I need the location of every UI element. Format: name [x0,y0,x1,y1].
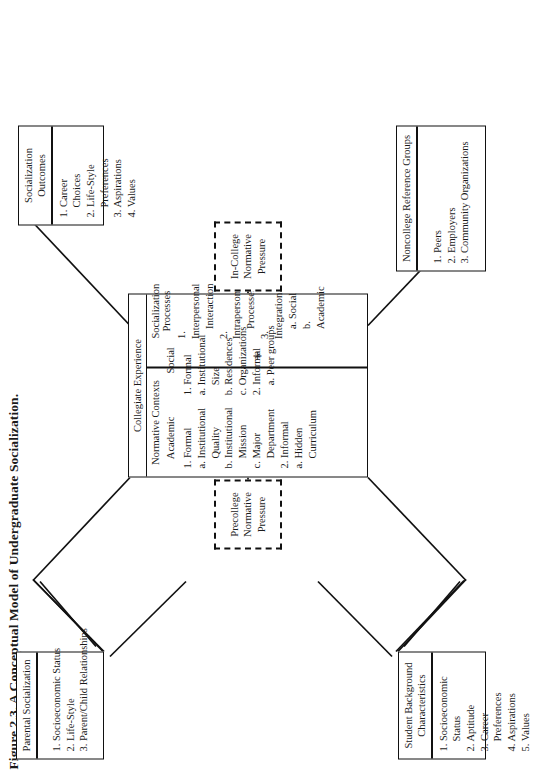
list-item: 1. Career [57,158,71,217]
box-collegiate-experience[interactable]: Collegiate Experience Normative Contexts… [128,293,368,477]
list-item: 1. Socioeconomic Status [50,628,64,751]
outcomes-list: 1. Career Choices 2. Life-Style Preferen… [57,158,139,217]
list-item: Quality [209,407,223,468]
list-item: 2. Life-Style [64,628,78,751]
box-noncollege-reference-groups[interactable]: Noncollege Reference Groups 1. Peers 2. … [396,125,486,271]
socialization-processes-title: Socialization Processes [147,277,173,344]
list-item: b. Academic [300,283,328,338]
box-incollege-normative-pressure[interactable]: In-College Normative Pressure [214,221,282,291]
link-student-to-center [318,581,392,656]
outcomes-header: Socialization Outcomes [19,126,51,224]
link-parental-to-center [110,581,186,656]
list-item: 3. Parent/Child Relationships [77,628,91,751]
box-precollege-normative-pressure[interactable]: Precollege Normative Pressure [214,479,282,549]
list-item: 2. Aptitude [464,676,478,751]
list-item: Curriculum [306,407,320,468]
list-item: 1. Peers [431,141,445,263]
diag-5 [33,222,130,325]
parental-list: 1. Socioeconomic Status 2. Life-Style 3.… [50,628,91,751]
student-body: 1. Socioeconomic Status 2. Aptitude 3. C… [433,652,534,758]
list-item: Department [264,407,278,468]
noncollege-body: 1. Peers 2. Employers 3. Community Organ… [418,126,485,270]
list-item: c. Major [250,407,264,468]
normative-contexts-content: Academic 1. Formal a. Institutional Qual… [162,368,367,476]
subcol-academic: Academic 1. Formal a. Institutional Qual… [164,402,319,470]
academic-subtitle: Academic [164,407,178,468]
box-student-background[interactable]: Student Background Characteristics 1. So… [398,651,486,759]
list-item: Mission [236,407,250,468]
parental-header: Parental Socialization [17,652,36,758]
outcomes-body: 1. Career Choices 2. Life-Style Preferen… [53,126,143,224]
student-header: Student Background Characteristics [399,652,431,758]
incollege-label: In-College Normative Pressure [228,223,267,289]
list-item: 3. Career [478,676,492,751]
parental-body: 1. Socioeconomic Status 2. Life-Style 3.… [38,652,103,758]
list-item: 2. Employers [445,141,459,263]
box-socialization-outcomes[interactable]: Socialization Outcomes 1. Career Choices… [18,125,104,225]
list-item: 1. Interpersonal [175,283,203,338]
list-item: 3. Aspirations [111,158,125,217]
list-item: a. Social [286,283,300,338]
list-item: 4. Values [125,158,139,217]
list-item: 2. Life-Style [84,158,98,217]
box-parental-socialization[interactable]: Parental Socialization 1. Socioeconomic … [16,651,104,759]
list-item: Status [450,676,464,751]
list-item: 1. Socioeconomic [437,676,451,751]
list-item: 2. Informal [278,407,292,468]
list-item: Preferences [98,158,112,217]
list-item: a. Institutional [195,407,209,468]
academic-list: 1. Formal a. Institutional Quality b. In… [181,407,320,468]
collegiate-header: Collegiate Experience [129,294,147,476]
normative-contexts-title: Normative Contexts [147,368,162,476]
list-item: 5. Values [519,676,533,751]
list-item: Preferences [491,676,505,751]
diag-3 [33,477,130,580]
list-item: a. Hidden [292,407,306,468]
list-item: 1. Formal [181,407,195,468]
list-item: 3. Community Organizations [458,141,472,263]
precollege-label: Precollege Normative Pressure [228,481,267,547]
noncollege-list: 1. Peers 2. Employers 3. Community Organ… [431,141,472,263]
student-list: 1. Socioeconomic Status 2. Aptitude 3. C… [437,676,532,751]
diag-4 [368,477,466,580]
collegiate-columns: Normative Contexts Academic 1. Formal a.… [147,294,367,476]
list-item: Choices [70,158,84,217]
diag-student-sw [396,580,464,651]
col-normative-contexts: Normative Contexts Academic 1. Formal a.… [147,368,367,476]
list-item: 4. Aspirations [505,676,519,751]
list-item: b. Institutional [222,407,236,468]
diag-2 [398,579,466,651]
noncollege-header: Noncollege Reference Groups [397,126,416,270]
